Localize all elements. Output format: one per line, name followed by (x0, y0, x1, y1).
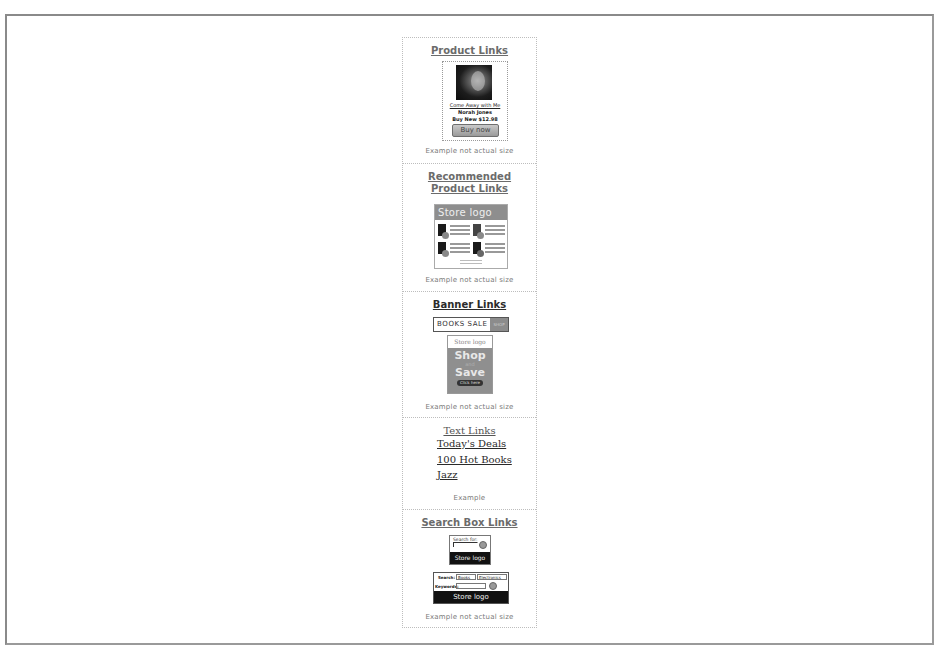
recommended-item (473, 242, 505, 259)
department-dropdown[interactable]: Electronics (477, 574, 507, 580)
keywords-label: Keywords: (435, 584, 455, 589)
category-select[interactable]: Books (456, 574, 476, 580)
go-button-icon[interactable] (489, 582, 497, 590)
section-banner-links: Banner Links BOOKS SALE SHOP Store logo … (403, 292, 536, 418)
search-caption: Example not actual size (403, 613, 536, 621)
store-logo: Store logo (448, 336, 492, 348)
large-search-box-example[interactable]: Search: Books Electronics Keywords: Stor… (433, 572, 509, 604)
product-link-example[interactable]: Come Away with Me Norah Jones Buy New $1… (442, 61, 508, 141)
text-link-jazz[interactable]: Jazz (437, 467, 512, 483)
text-link-todays-deals[interactable]: Today's Deals (437, 436, 512, 452)
store-logo: Store logo (450, 552, 490, 564)
store-logo: Store logo (434, 591, 508, 603)
album-cover-image (456, 65, 492, 100)
section-product-links: Product Links Come Away with Me Norah Jo… (403, 38, 536, 164)
small-search-box-example[interactable]: Search for: Store logo (449, 535, 491, 565)
search-box-links-title[interactable]: Search Box Links (407, 517, 532, 529)
album-title[interactable]: Come Away with Me (443, 102, 507, 109)
recommended-item (438, 224, 470, 241)
section-search-box-links: Search Box Links Search for: Store logo … (403, 510, 536, 627)
recommended-links-example[interactable]: Store logo (434, 204, 508, 269)
price-text: Buy New $12.98 (443, 116, 507, 123)
click-here-button: Click here (457, 380, 483, 386)
banner-save-text: Save (448, 367, 492, 379)
artist-name: Norah Jones (443, 109, 507, 116)
horizontal-banner-example[interactable]: BOOKS SALE SHOP (433, 317, 509, 332)
search-for-label: Search for: (453, 537, 478, 542)
link-types-column: Product Links Come Away with Me Norah Jo… (402, 37, 537, 628)
buy-now-button[interactable]: Buy now (452, 124, 499, 137)
text-caption: Example (403, 494, 536, 502)
go-button-icon[interactable] (479, 541, 487, 549)
recommended-caption: Example not actual size (403, 276, 536, 284)
recommended-links-title[interactable]: Recommended Product Links (407, 171, 532, 195)
product-caption: Example not actual size (403, 147, 536, 155)
section-recommended-links: Recommended Product Links Store logo Exa… (403, 164, 536, 292)
section-text-links: Text Links Today's Deals 100 Hot Books J… (403, 418, 536, 510)
keywords-input[interactable] (456, 583, 486, 589)
banner-links-title[interactable]: Banner Links (407, 299, 532, 311)
vertical-banner-example[interactable]: Store logo Shop and Save Click here (447, 335, 493, 394)
banner-text: BOOKS SALE (437, 318, 488, 331)
search-label: Search: (435, 575, 455, 580)
product-links-title[interactable]: Product Links (407, 45, 532, 57)
banner-caption: Example not actual size (403, 403, 536, 411)
banner-shop-button: SHOP (490, 318, 508, 331)
text-links-example: Today's Deals 100 Hot Books Jazz (437, 436, 512, 483)
recommended-item (438, 242, 470, 259)
text-link-100-hot-books[interactable]: 100 Hot Books (437, 452, 512, 468)
store-logo: Store logo (435, 205, 507, 220)
recommended-item (473, 224, 505, 241)
search-input[interactable] (453, 543, 478, 547)
